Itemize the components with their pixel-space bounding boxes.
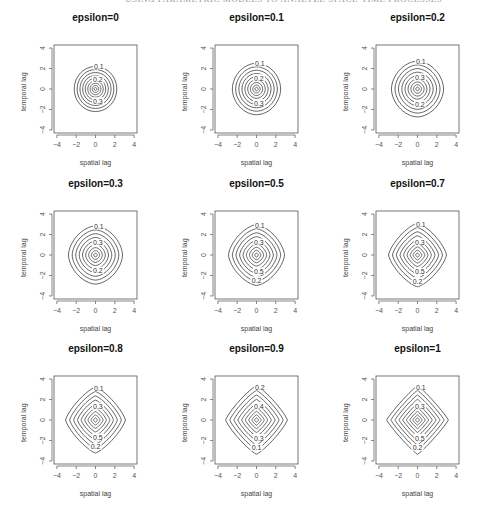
contour-label: 0.1	[255, 60, 265, 67]
x-tick-label: −4	[375, 472, 383, 479]
contour-line	[416, 253, 420, 257]
y-tick-label: −2	[39, 105, 46, 113]
x-tick-label: 4	[454, 472, 458, 479]
contour-panel: epsilon=0.1temporal lagspatial lag−4−202…	[161, 12, 321, 177]
contour-panel: epsilon=0.8temporal lagspatial lag−4−202…	[0, 343, 160, 508]
contour-plot: −4−2024−4−20240.10.30.50.2	[54, 376, 137, 464]
contour-label: 0.3	[93, 239, 103, 246]
x-tick-label: 0	[416, 472, 420, 479]
x-axis-label: spatial lag	[54, 490, 137, 497]
plot-frame	[215, 45, 298, 133]
y-axis-label: temporal lag	[20, 238, 27, 277]
y-tick-label: 2	[361, 397, 368, 401]
panel-title: epsilon=0.2	[376, 12, 459, 23]
contour-line	[88, 412, 103, 429]
panel-title: epsilon=0.8	[54, 343, 137, 354]
x-axis-label: spatial lag	[215, 325, 298, 332]
y-axis-label: temporal lag	[181, 238, 188, 277]
contour-line	[416, 87, 419, 91]
x-tick-label: 0	[255, 307, 259, 314]
contour-label: 0.3	[254, 100, 264, 107]
contour-label: 0.1	[416, 384, 426, 391]
contour-line	[94, 253, 97, 257]
x-tick-label: 4	[132, 307, 136, 314]
x-axis-label: spatial lag	[376, 325, 459, 332]
y-tick-label: −4	[200, 292, 207, 300]
contour-label: 0.2	[91, 443, 101, 450]
y-tick-label: 2	[361, 66, 368, 70]
contour-line	[410, 411, 426, 428]
y-tick-label: 0	[361, 418, 368, 422]
x-tick-label: −4	[375, 307, 383, 314]
contour-plot: −4−2024−4−20240.10.30.2	[376, 45, 459, 133]
x-tick-label: 0	[94, 472, 98, 479]
y-tick-label: 0	[200, 418, 207, 422]
contour-line	[232, 63, 280, 114]
y-tick-label: 4	[39, 46, 46, 50]
x-tick-label: 0	[255, 141, 259, 148]
contour-line	[94, 418, 98, 422]
y-tick-label: −4	[361, 126, 368, 134]
contour-line	[249, 411, 265, 428]
panel-title: epsilon=0	[54, 12, 137, 23]
contour-panel: epsilon=1temporal lagspatial lag−4−2024−…	[322, 343, 482, 508]
x-tick-label: 4	[132, 141, 136, 148]
x-tick-label: 2	[113, 307, 117, 314]
x-tick-label: 0	[94, 307, 98, 314]
y-tick-label: −2	[200, 436, 207, 444]
y-tick-label: 4	[200, 377, 207, 381]
y-tick-label: −4	[200, 126, 207, 134]
y-tick-label: 0	[39, 418, 46, 422]
contour-line	[414, 85, 422, 94]
x-tick-label: 2	[274, 141, 278, 148]
x-tick-label: 0	[416, 141, 420, 148]
y-tick-label: −4	[361, 457, 368, 465]
x-tick-label: −2	[394, 472, 402, 479]
x-tick-label: 4	[454, 141, 458, 148]
contour-label: 0.2	[252, 277, 262, 284]
contour-line	[391, 61, 443, 117]
panel-title: epsilon=0.1	[215, 12, 298, 23]
y-tick-label: −4	[39, 292, 46, 300]
x-tick-label: 2	[113, 472, 117, 479]
contour-line	[253, 85, 260, 93]
x-axis-label: spatial lag	[376, 490, 459, 497]
contour-line	[255, 253, 259, 257]
contour-line	[416, 418, 420, 422]
x-axis-label: spatial lag	[376, 159, 459, 166]
y-tick-label: −2	[361, 271, 368, 279]
contour-label: 0.5	[93, 434, 103, 441]
contour-label: 0.3	[93, 403, 103, 410]
contour-label: 0.5	[415, 435, 425, 442]
y-axis-label: temporal lag	[181, 403, 188, 442]
y-tick-label: 4	[361, 46, 368, 50]
panel-title: epsilon=0.7	[376, 178, 459, 189]
y-tick-label: 2	[39, 397, 46, 401]
x-tick-label: 4	[293, 472, 297, 479]
contour-line	[410, 247, 425, 263]
contour-line	[91, 251, 99, 260]
y-tick-label: 2	[200, 66, 207, 70]
contour-line	[92, 86, 98, 93]
x-tick-label: −2	[72, 141, 80, 148]
y-axis-label: temporal lag	[20, 72, 27, 111]
y-axis-label: temporal lag	[342, 403, 349, 442]
y-tick-label: 0	[361, 253, 368, 257]
x-tick-label: 0	[416, 307, 420, 314]
contour-line	[250, 82, 262, 95]
x-tick-label: 2	[435, 472, 439, 479]
x-tick-label: −4	[214, 307, 222, 314]
y-axis-label: temporal lag	[20, 403, 27, 442]
x-tick-label: −4	[214, 472, 222, 479]
contour-label: 0.1	[252, 444, 262, 451]
plot-frame	[54, 45, 137, 133]
contour-label: 0.3	[415, 239, 425, 246]
contour-plot: −4−2024−4−20240.10.30.50.2	[376, 376, 459, 464]
x-tick-label: 2	[274, 472, 278, 479]
contour-panel: epsilon=0.2temporal lagspatial lag−4−202…	[322, 12, 482, 177]
contour-plot: −4−2024−4−20240.10.30.50.2	[376, 211, 459, 299]
y-tick-label: 4	[361, 212, 368, 216]
y-tick-label: −2	[200, 105, 207, 113]
panel-title: epsilon=0.5	[215, 178, 298, 189]
contour-label: 0.2	[93, 267, 103, 274]
